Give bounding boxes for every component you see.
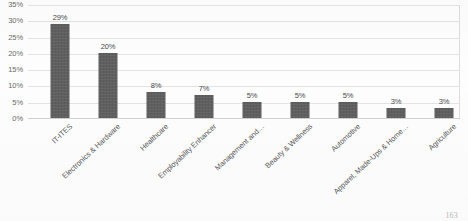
- y-axis: 35% 30% 25% 20% 15% 10% 5% 0%: [0, 5, 26, 119]
- x-tick-label-it-ites: IT-ITES: [50, 122, 74, 145]
- x-tick-label-beauty-wellness: Beauty & Wellness: [263, 122, 314, 170]
- page-number: 163: [445, 211, 458, 220]
- bar[interactable]: [339, 102, 358, 118]
- plot-area: 29% 20% 8% 7% 5% 5%: [28, 5, 460, 119]
- bar[interactable]: [99, 53, 118, 118]
- y-tick-label: 30%: [8, 17, 23, 25]
- bar[interactable]: [51, 24, 70, 118]
- x-tick-label-agriculture: Agriculture: [427, 122, 459, 152]
- bar-value-label: 3%: [391, 98, 402, 106]
- bar-series: 29% 20% 8% 7% 5% 5%: [28, 5, 460, 119]
- bar-slot: 5%: [276, 5, 324, 119]
- bar-slot: 20%: [84, 5, 132, 119]
- bar-value-label: 5%: [247, 92, 258, 100]
- bar[interactable]: [147, 92, 166, 118]
- bar-slot: 3%: [372, 5, 420, 119]
- y-tick-label: 5%: [12, 99, 23, 107]
- bar[interactable]: [195, 95, 214, 118]
- bar-slot: 3%: [420, 5, 468, 119]
- bar-slot: 5%: [324, 5, 372, 119]
- x-tick-label-management-and: Management and…: [213, 122, 266, 172]
- bar-slot: 7%: [180, 5, 228, 119]
- bar-slot: 5%: [228, 5, 276, 119]
- y-tick-label: 10%: [8, 82, 23, 90]
- bar-value-label: 7%: [199, 85, 210, 93]
- bar-value-label: 29%: [53, 14, 68, 22]
- y-tick-label: 25%: [8, 34, 23, 42]
- bar-chart-figure: 35% 30% 25% 20% 15% 10% 5% 0% 29%: [0, 0, 468, 221]
- bar-value-label: 3%: [439, 98, 450, 106]
- bar-slot: 8%: [132, 5, 180, 119]
- bar-value-label: 20%: [101, 43, 116, 51]
- bar[interactable]: [243, 102, 262, 118]
- x-axis: IT-ITES Electronics & Hardware Healthcar…: [28, 120, 460, 215]
- y-tick-label: 0%: [12, 115, 23, 123]
- x-tick-label-automotive: Automotive: [329, 122, 362, 153]
- bar[interactable]: [387, 108, 406, 118]
- bar-value-label: 5%: [343, 92, 354, 100]
- bar[interactable]: [291, 102, 310, 118]
- y-tick-label: 35%: [8, 1, 23, 9]
- y-tick-label: 15%: [8, 66, 23, 74]
- bar-slot: 29%: [36, 5, 84, 119]
- x-tick-label-healthcare: Healthcare: [138, 122, 170, 153]
- bar-value-label: 5%: [295, 92, 306, 100]
- y-tick-label: 20%: [8, 50, 23, 58]
- bar[interactable]: [435, 108, 454, 118]
- bar-value-label: 8%: [151, 82, 162, 90]
